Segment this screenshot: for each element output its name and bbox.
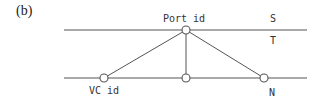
label-s: S [270,13,276,24]
label-n: N [269,87,275,98]
tree-diagram: Port id VC id N S T [0,0,322,103]
node-mid [182,74,190,82]
label-port-id: Port id [163,13,205,24]
node-port [182,26,190,34]
label-t: T [270,35,276,46]
edge-port-vc [104,30,186,78]
node-n [260,74,268,82]
node-vc [100,74,108,82]
label-vc-id: VC id [89,85,119,96]
edge-port-n [186,30,264,78]
